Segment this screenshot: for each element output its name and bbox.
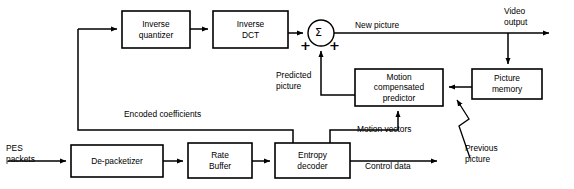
label-pes-packets: PES packets xyxy=(6,143,35,164)
label-previous-picture: Previous picture xyxy=(465,143,498,164)
wire-predicted-picture xyxy=(321,51,355,95)
box-entropy-decoder[interactable] xyxy=(275,143,350,178)
box-inverse-quantizer[interactable] xyxy=(122,11,190,48)
label-encoded-coefficients: Encoded coefficients xyxy=(124,109,201,120)
box-rate-buffer[interactable] xyxy=(188,143,252,178)
label-predicted-picture: Predicted picture xyxy=(276,70,311,91)
summing-junction-plus-bottom: + xyxy=(329,38,340,53)
summing-junction-sigma: Σ xyxy=(315,26,322,39)
box-de-packetizer[interactable] xyxy=(71,145,163,177)
box-inverse-dct[interactable] xyxy=(213,11,288,48)
summing-junction-plus-left: + xyxy=(300,38,311,53)
label-new-picture: New picture xyxy=(355,20,399,31)
box-motion-compensated-predictor[interactable] xyxy=(355,69,443,106)
label-control-data: Control data xyxy=(365,161,411,172)
label-motion-vectors: Motion vectors xyxy=(357,124,411,135)
diagram-canvas: Inverse quantizer Inverse DCT Picture me… xyxy=(0,0,574,189)
box-picture-memory[interactable] xyxy=(472,69,542,99)
label-video-output: Video output xyxy=(504,6,527,27)
